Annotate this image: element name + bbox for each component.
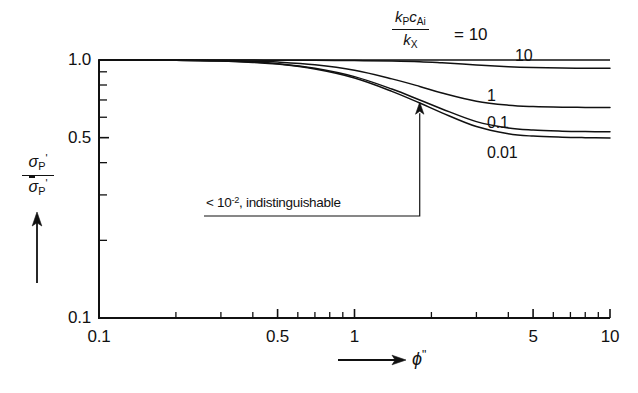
legend-denominator: kX bbox=[392, 31, 429, 51]
y-axis-label-numerator: σP' bbox=[16, 152, 60, 173]
y-tick-label-0.1: 0.1 bbox=[68, 309, 91, 326]
curve-label-0.1: 0.1 bbox=[487, 115, 509, 131]
curve-label-10: 10 bbox=[515, 48, 532, 64]
annotation-rest: , indistinguishable bbox=[239, 195, 341, 210]
y-tick-label-1.0: 1.0 bbox=[68, 51, 91, 68]
x-axis-label: ϕ" bbox=[412, 348, 426, 370]
figure-container: kPcAi kX = 10 σP' σP' ϕ" 0.10.515100.10.… bbox=[0, 0, 638, 393]
annotation-ten: 10 bbox=[217, 195, 231, 210]
annotation-text: < 10-2, indistinguishable bbox=[206, 196, 341, 210]
fraction-bar bbox=[392, 29, 429, 30]
curve-label-0.01: 0.01 bbox=[487, 145, 517, 161]
x-tick-label-0.5: 0.5 bbox=[266, 328, 289, 345]
y-axis-label: σP' σP' bbox=[16, 152, 60, 199]
x-tick-label-5: 5 bbox=[528, 328, 537, 345]
y-tick-label-0.5: 0.5 bbox=[68, 129, 91, 146]
y-axis-label-denominator: σP' bbox=[16, 177, 60, 198]
axis-ticks bbox=[99, 60, 610, 318]
legend-fraction: kPcAi kX bbox=[392, 8, 429, 51]
curve-0.01 bbox=[99, 60, 610, 138]
y-axis-fraction-bar bbox=[22, 175, 54, 176]
x-tick-label-1: 1 bbox=[350, 328, 359, 345]
x-tick-label-10: 10 bbox=[601, 328, 620, 345]
annotation-lt: < bbox=[206, 195, 214, 210]
axes-lines bbox=[99, 60, 610, 318]
legend-numerator: kPcAi bbox=[392, 8, 429, 28]
x-tick-label-0.1: 0.1 bbox=[87, 328, 110, 345]
annotation-exponent: -2 bbox=[231, 195, 239, 205]
legend-equals-value: = 10 bbox=[454, 25, 488, 45]
data-curves bbox=[99, 60, 610, 138]
curve-label-1: 1 bbox=[487, 88, 496, 104]
